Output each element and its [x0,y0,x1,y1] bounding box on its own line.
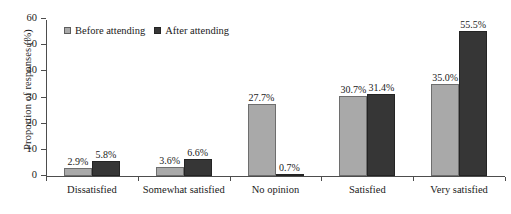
bar-before-2: 27.7% [248,104,276,176]
bar-value-label: 55.5% [460,19,486,31]
bar-chart: Proportion of responses (%) Before atten… [0,0,511,214]
x-tick-5 [505,177,506,181]
bar-value-label: 0.7% [279,162,300,174]
bar-after-2: 0.7% [276,174,304,176]
y-tick-20: 20 [41,123,46,124]
bar-value-label: 35.0% [432,72,458,84]
x-tick-1 [138,177,139,181]
bar-value-label: 6.6% [187,147,208,159]
bar-after-4: 55.5% [459,31,487,176]
x-axis-label-2: No opinion [252,183,300,196]
y-tick-40: 40 [41,70,46,71]
bar-value-label: 3.6% [159,155,180,167]
plot-area: 0102030405060 2.9%5.8%3.6%6.6%27.7%0.7%3… [46,20,505,177]
y-tick-label-40: 40 [27,63,38,76]
y-tick-label-10: 10 [27,142,38,155]
y-tick-label-30: 30 [27,90,38,103]
bar-value-label: 27.7% [249,92,275,104]
bar-before-3: 30.7% [339,96,367,176]
bar-value-label: 30.7% [340,84,366,96]
bar-value-label: 31.4% [368,82,394,94]
bar-value-label: 2.9% [67,156,88,168]
bar-after-3: 31.4% [367,94,395,176]
x-axis-label-4: Very satisfied [430,183,487,196]
bar-after-1: 6.6% [184,159,212,176]
y-tick-10: 10 [41,149,46,150]
y-tick-0: 0 [41,175,46,176]
x-axis-line [46,176,505,177]
bar-before-0: 2.9% [64,168,92,176]
x-tick-4 [413,177,414,181]
y-tick-60: 60 [41,18,46,19]
y-tick-label-20: 20 [27,116,38,129]
bar-value-label: 5.8% [95,149,116,161]
bar-before-1: 3.6% [156,167,184,176]
y-axis-line [46,20,47,177]
bar-before-4: 35.0% [431,84,459,176]
y-tick-label-50: 50 [27,37,38,50]
x-axis-label-1: Somewhat satisfied [143,183,225,196]
y-tick-50: 50 [41,44,46,45]
x-tick-3 [321,177,322,181]
x-axis-label-0: Dissatisfied [67,183,117,196]
bar-after-0: 5.8% [92,161,120,176]
x-axis-label-3: Satisfied [349,183,386,196]
y-tick-label-60: 60 [27,11,38,24]
x-tick-2 [230,177,231,181]
y-tick-label-0: 0 [32,168,37,181]
x-tick-0 [46,177,47,181]
y-tick-30: 30 [41,97,46,98]
